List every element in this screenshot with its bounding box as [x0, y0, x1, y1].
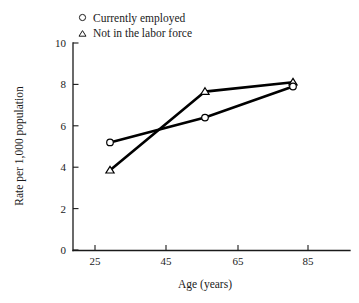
- axes-group: [73, 43, 350, 251]
- data-point-marker: [107, 139, 114, 146]
- x-axis-ticks: 25 45 65 85: [90, 245, 315, 267]
- data-point-marker: [290, 83, 297, 90]
- y-tick-label-10: 10: [55, 37, 67, 49]
- y-tick-label-6: 6: [61, 120, 67, 132]
- legend-item-not-in-labor-force: Not in the labor force: [79, 27, 192, 39]
- chart-legend: Currently employed Not in the labor forc…: [79, 12, 192, 39]
- x-tick-label-45: 45: [161, 255, 173, 267]
- y-axis-ticks: 10 8 6 4 2 0: [55, 37, 79, 256]
- y-tick-label-2: 2: [61, 203, 67, 215]
- y-tick-label-0: 0: [61, 244, 67, 256]
- y-tick-label-8: 8: [61, 78, 67, 90]
- legend-label-currently-employed: Currently employed: [93, 12, 186, 25]
- line-chart: Currently employed Not in the labor forc…: [0, 0, 359, 303]
- x-axis-title: Age (years): [178, 278, 232, 291]
- series-not-in-labor-force: [106, 78, 297, 173]
- y-tick-label-4: 4: [61, 161, 67, 173]
- x-tick-label-85: 85: [303, 255, 315, 267]
- x-tick-label-25: 25: [90, 255, 102, 267]
- legend-item-currently-employed: Currently employed: [79, 12, 185, 25]
- chart-container: Currently employed Not in the labor forc…: [0, 0, 359, 303]
- x-tick-label-65: 65: [233, 255, 245, 267]
- legend-label-not-in-labor-force: Not in the labor force: [93, 27, 192, 39]
- y-axis-title: Rate per 1,000 population: [13, 86, 26, 206]
- data-point-marker: [202, 114, 209, 121]
- triangle-marker-icon: [79, 31, 86, 37]
- circle-marker-icon: [79, 14, 85, 20]
